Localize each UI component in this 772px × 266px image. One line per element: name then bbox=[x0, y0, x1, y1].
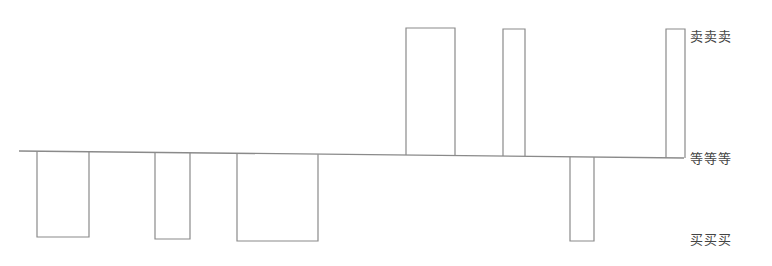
label-buy: 买买买 bbox=[690, 229, 732, 248]
baseline-wait-line bbox=[19, 151, 684, 158]
sell-bar bbox=[406, 28, 455, 156]
signal-bars bbox=[37, 28, 685, 241]
buy-bar bbox=[570, 157, 594, 241]
signal-diagram bbox=[0, 0, 772, 266]
buy-bar bbox=[155, 152, 190, 239]
label-sell: 卖卖卖 bbox=[690, 26, 732, 45]
label-wait: 等等等 bbox=[690, 148, 732, 167]
sell-bar bbox=[503, 29, 525, 156]
buy-bar bbox=[237, 153, 318, 241]
sell-bar bbox=[666, 29, 685, 158]
buy-bar bbox=[37, 151, 89, 237]
